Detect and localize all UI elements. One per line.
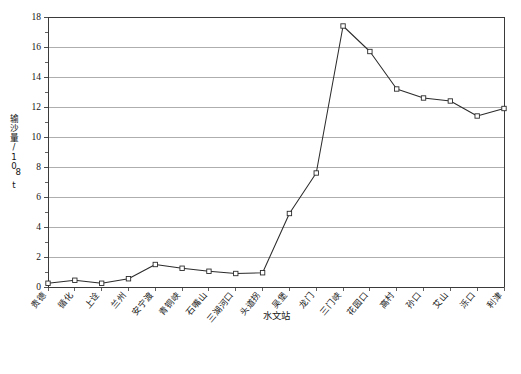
x-tick-label: 上诠 xyxy=(82,289,102,310)
x-tick-label: 花园口 xyxy=(344,289,370,317)
data-point-marker xyxy=(314,171,318,175)
data-point-marker xyxy=(287,211,291,215)
y-tick-label: 12 xyxy=(32,102,42,112)
data-point-marker xyxy=(341,24,345,28)
data-point-marker xyxy=(234,271,238,275)
data-point-marker xyxy=(207,269,211,273)
y-tick-label: 14 xyxy=(32,72,42,82)
sediment-transport-line-chart: 024681012141618 贵德循化上诠兰州安宁渡青铜峡石嘴山三湖河口头道拐… xyxy=(0,0,521,374)
y-axis-tick-labels: 024681012141618 xyxy=(32,12,42,292)
y-axis-title: 输沙量/108t xyxy=(10,113,21,190)
y-tick-label: 6 xyxy=(36,192,41,202)
x-tick-label: 循化 xyxy=(55,289,75,310)
data-point-marker xyxy=(368,49,372,53)
y-axis-title-char: t xyxy=(12,180,16,190)
x-tick-label: 兰州 xyxy=(109,289,129,310)
data-point-marker xyxy=(73,278,77,282)
x-tick-label: 安宁渡 xyxy=(130,289,156,317)
x-tick-label: 龙门 xyxy=(296,289,316,310)
y-axis-title-char: 输 xyxy=(10,113,19,124)
data-point-marker xyxy=(260,271,264,275)
series-polyline xyxy=(48,26,504,283)
x-tick-label: 艾山 xyxy=(431,290,450,310)
axes-frame xyxy=(48,17,504,287)
x-tick-label: 石嘴山 xyxy=(184,290,209,317)
data-point-marker xyxy=(502,106,506,110)
data-point-marker xyxy=(421,96,425,100)
data-point-marker xyxy=(395,87,399,91)
y-tick-label: 18 xyxy=(32,12,42,22)
y-tick-label: 8 xyxy=(36,162,41,172)
data-point-marker xyxy=(475,114,479,118)
x-tick-label: 贵德 xyxy=(28,289,48,310)
data-point-marker xyxy=(126,277,130,281)
data-point-marker xyxy=(180,266,184,270)
x-axis-title: 水文站 xyxy=(263,310,290,321)
gridlines-group xyxy=(48,17,504,257)
data-point-marker xyxy=(99,281,103,285)
chart-container: 024681012141618 贵德循化上诠兰州安宁渡青铜峡石嘴山三湖河口头道拐… xyxy=(0,0,521,374)
x-tick-label: 利津 xyxy=(484,289,504,310)
y-axis-title-char: 8 xyxy=(15,167,20,177)
y-tick-label: 16 xyxy=(32,42,42,52)
x-tick-label: 孙口 xyxy=(404,289,424,310)
y-tick-label: 4 xyxy=(36,222,41,232)
data-point-marker xyxy=(448,99,452,103)
x-tick-label: 泺口 xyxy=(457,289,477,310)
data-series-markers xyxy=(46,24,506,286)
x-tick-label: 三门峡 xyxy=(317,289,343,317)
x-tick-label: 头道拐 xyxy=(237,289,263,317)
data-point-marker xyxy=(153,262,157,266)
x-tick-label: 青铜峡 xyxy=(156,289,182,317)
x-tick-label: 吴堡 xyxy=(270,290,289,310)
x-tick-label: 高村 xyxy=(377,289,397,310)
data-series-line xyxy=(48,26,504,283)
x-tick-label: 三湖河口 xyxy=(204,289,236,324)
data-point-marker xyxy=(46,281,50,285)
y-tick-label: 2 xyxy=(36,252,41,262)
x-axis-ticks-group xyxy=(48,287,504,291)
y-tick-label: 10 xyxy=(32,132,42,142)
